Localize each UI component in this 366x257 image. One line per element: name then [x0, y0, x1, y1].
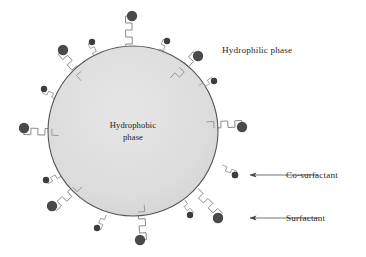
- co-surfactant-head-c4: [211, 78, 217, 84]
- co-surfactant-head-c1: [89, 39, 95, 45]
- surfactant-callout: Surfactant: [250, 213, 326, 223]
- surfactant-head-s7: [237, 122, 247, 132]
- surfactant-label: Surfactant: [286, 213, 326, 223]
- diagram-canvas: Hydrophobic phase Hydrophilic phase Co-s…: [0, 0, 366, 257]
- surfactant-head-s1: [127, 11, 137, 21]
- legend-marker-surfactant: [213, 213, 223, 223]
- micelle-diagram: Hydrophobic phase Hydrophilic phase Co-s…: [0, 0, 366, 257]
- co-surfactant-head-c5: [43, 177, 49, 183]
- co-surfactant-head-c7: [94, 225, 100, 231]
- hydrophobic-phase-label-line2: phase: [123, 132, 143, 142]
- surfactant-head-s3: [19, 123, 29, 133]
- surfactant-head-s8: [193, 51, 203, 61]
- legend-marker-co-surfactant: [232, 172, 238, 178]
- co-surfactant-label: Co-surfactant: [286, 170, 338, 180]
- surfactant-head-s2: [58, 45, 68, 55]
- co-surfactant-head-c3: [41, 86, 47, 92]
- co-surfactant-head-c2: [164, 38, 170, 44]
- co-surfactant-head-c8: [187, 212, 193, 218]
- hydrophobic-core-circle: [48, 46, 218, 216]
- surfactant-head-s5: [135, 235, 145, 245]
- co-surfactant-callout: Co-surfactant: [250, 170, 338, 180]
- hydrophilic-phase-label: Hydrophilic phase: [222, 45, 292, 55]
- surfactant-head-s4: [47, 201, 57, 211]
- hydrophobic-phase-label-line1: Hydrophobic: [110, 120, 157, 130]
